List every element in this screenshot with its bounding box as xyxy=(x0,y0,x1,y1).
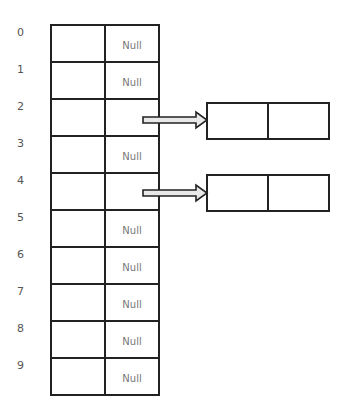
table-row: Null xyxy=(52,359,158,396)
pointer-cell: Null xyxy=(106,359,158,394)
index-label: 3 xyxy=(17,137,31,150)
pointer-cell: Null xyxy=(106,137,158,172)
pointer-cell: Null xyxy=(106,248,158,283)
hash-table: NullNullNullNullNullNullNullNull xyxy=(50,24,160,396)
node-next-field xyxy=(269,104,328,138)
index-label: 5 xyxy=(17,211,31,224)
node-next-field xyxy=(269,176,328,210)
index-label: 7 xyxy=(17,285,31,298)
key-cell xyxy=(52,211,106,246)
key-cell xyxy=(52,63,106,98)
key-cell xyxy=(52,248,106,283)
table-row: Null xyxy=(52,285,158,322)
index-label: 8 xyxy=(17,322,31,335)
pointer-arrow-4 xyxy=(140,183,210,203)
index-label: 0 xyxy=(17,26,31,39)
key-cell xyxy=(52,322,106,357)
table-row: Null xyxy=(52,211,158,248)
table-row: Null xyxy=(52,26,158,63)
index-label: 6 xyxy=(17,248,31,261)
table-row: Null xyxy=(52,63,158,100)
key-cell xyxy=(52,359,106,394)
pointer-cell: Null xyxy=(106,211,158,246)
node-data-field xyxy=(208,176,269,210)
key-cell xyxy=(52,285,106,320)
linked-node-2 xyxy=(206,174,330,212)
key-cell xyxy=(52,26,106,61)
table-row: Null xyxy=(52,248,158,285)
pointer-cell: Null xyxy=(106,322,158,357)
table-row: Null xyxy=(52,137,158,174)
key-cell xyxy=(52,100,106,135)
node-data-field xyxy=(208,104,269,138)
key-cell xyxy=(52,137,106,172)
index-label: 1 xyxy=(17,63,31,76)
pointer-cell: Null xyxy=(106,26,158,61)
table-row: Null xyxy=(52,322,158,359)
linked-node-1 xyxy=(206,102,330,140)
index-label: 2 xyxy=(17,100,31,113)
pointer-cell: Null xyxy=(106,285,158,320)
key-cell xyxy=(52,174,106,209)
pointer-cell: Null xyxy=(106,63,158,98)
pointer-arrow-2 xyxy=(140,110,210,130)
index-label: 9 xyxy=(17,359,31,372)
index-label: 4 xyxy=(17,174,31,187)
